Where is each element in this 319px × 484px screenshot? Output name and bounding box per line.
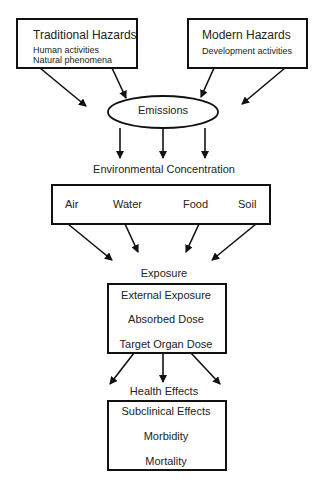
environmental-concentration-label: Environmental Concentration [93,163,235,175]
medium-soil: Soil [238,198,256,210]
medium-air: Air [65,198,78,210]
modern-item-development: Development activities [202,46,292,56]
exposure-step-external: External Exposure [121,289,211,301]
traditional-hazards-title: Traditional Hazards [33,28,137,42]
health-effects-label: Health Effects [130,385,198,397]
exposure-box: External Exposure Absorbed Dose Target O… [107,283,227,354]
medium-food: Food [183,198,208,210]
modern-hazards-title: Modern Hazards [202,28,291,42]
traditional-item-human: Human activities [33,45,99,55]
traditional-item-natural: Natural phenomena [33,55,112,65]
environment-media-box: Air Water Food Soil [51,184,271,225]
health-step-morbidity: Morbidity [144,430,189,442]
exposure-step-absorbed: Absorbed Dose [128,313,204,325]
emissions-label: Emissions [138,104,188,116]
medium-water: Water [113,198,142,210]
exposure-step-target-organ: Target Organ Dose [120,338,213,350]
modern-hazards-box: Modern Hazards Development activities [187,18,308,69]
health-step-mortality: Mortality [145,455,187,467]
health-effects-box: Subclinical Effects Morbidity Mortality [107,400,227,471]
exposure-label: Exposure [141,267,187,279]
traditional-hazards-box: Traditional Hazards Human activities Nat… [16,18,138,69]
health-step-subclinical: Subclinical Effects [121,405,210,417]
